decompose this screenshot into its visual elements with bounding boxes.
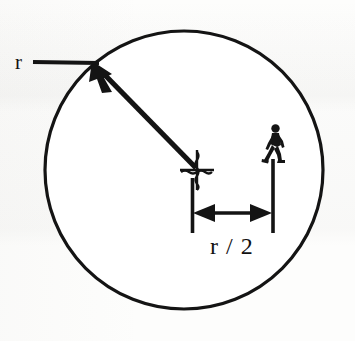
half-radius-label: r / 2 — [210, 234, 254, 258]
circle-radius-figure — [0, 0, 355, 341]
diagram-canvas: r r / 2 — [0, 0, 355, 341]
radius-label: r — [15, 52, 22, 73]
radius-leader-line — [33, 62, 99, 63]
